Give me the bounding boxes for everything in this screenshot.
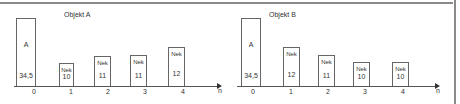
- bar-value: 11: [95, 72, 110, 79]
- bar-value: 12: [169, 70, 184, 77]
- chart-objekt-b: Objekt B A 34,5 Nek 12 Nek 11 Nek 10 Nek…: [225, 0, 450, 104]
- bar-label: Nek: [319, 59, 334, 65]
- chart-title: Objekt A: [64, 11, 90, 18]
- bar-0: A 34,5: [16, 18, 36, 87]
- x-axis-label: n: [436, 87, 440, 94]
- bar-1: Nek 10: [59, 63, 74, 87]
- tick-label: 2: [103, 88, 113, 95]
- right-border-line: [454, 0, 456, 104]
- bar-label: A: [17, 41, 35, 48]
- bar-label: Nek: [95, 60, 110, 66]
- tick-label: 2: [323, 88, 333, 95]
- tick-label: 3: [360, 88, 370, 95]
- bar-3: Nek 10: [353, 62, 370, 87]
- chart-objekt-a: Objekt A A 34,5 Nek 10 Nek 11 Nek 11 Nek…: [0, 0, 225, 104]
- tick-label: 1: [286, 88, 296, 95]
- tick-label: 4: [398, 88, 408, 95]
- bar-1: Nek 12: [283, 47, 300, 87]
- bar-label: Nek: [393, 66, 408, 72]
- bar-label: Nek: [169, 51, 184, 57]
- tick-label: 0: [29, 88, 39, 95]
- chart-title: Objekt B: [269, 11, 296, 18]
- bar-3: Nek 11: [130, 55, 147, 87]
- bar-label: A: [242, 41, 260, 48]
- bar-value: 34,5: [17, 72, 35, 79]
- bar-value: 34,5: [242, 72, 260, 79]
- x-axis: [14, 86, 219, 87]
- bar-4: Nek 10: [392, 62, 409, 87]
- tick-label: 3: [140, 88, 150, 95]
- bar-value: 10: [393, 73, 408, 80]
- bar-4: Nek 12: [168, 47, 185, 87]
- bar-value: 12: [284, 71, 299, 78]
- bar-0: A 34,5: [241, 18, 261, 87]
- bar-label: Nek: [284, 51, 299, 57]
- bar-label: Nek: [131, 59, 146, 65]
- bar-value: 11: [319, 72, 334, 79]
- tick-label: 4: [178, 88, 188, 95]
- bar-value: 10: [60, 73, 73, 80]
- bar-value: 11: [131, 72, 146, 79]
- tick-label: 0: [248, 88, 258, 95]
- bar-label: Nek: [354, 66, 369, 72]
- bar-value: 10: [354, 73, 369, 80]
- x-axis-label: n: [218, 87, 222, 94]
- bar-2: Nek 11: [94, 56, 111, 87]
- x-axis: [237, 86, 437, 87]
- bar-2: Nek 11: [318, 55, 335, 87]
- tick-label: 1: [66, 88, 76, 95]
